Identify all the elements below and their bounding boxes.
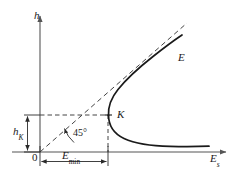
minimum-energy-label-base: E (62, 149, 69, 161)
critical-depth-label: hK (13, 126, 23, 140)
asymptote-45deg-line (40, 23, 187, 152)
minimum-energy-label: Emin (62, 150, 80, 164)
x-axis-label-sub: s (217, 160, 220, 169)
critical-depth-label-base: h (13, 125, 19, 137)
critical-point-label: K (117, 109, 124, 120)
specific-energy-figure: h hK 0 Emin Es 45° K E (0, 0, 235, 178)
y-axis-label: h (34, 10, 40, 21)
x-axis-label: Es (210, 153, 220, 167)
upper-branch-curve (108, 35, 182, 116)
x-axis-label-base: E (210, 152, 217, 164)
minimum-energy-label-sub: min (69, 158, 80, 166)
curve-label: E (178, 52, 185, 63)
critical-depth-label-sub: K (19, 133, 24, 142)
origin-label: 0 (32, 152, 38, 163)
angle-label: 45° (73, 128, 87, 138)
